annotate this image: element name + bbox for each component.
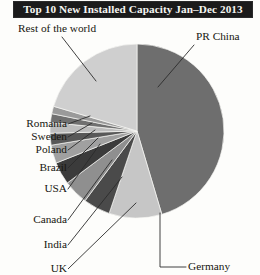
leader-line-germany: [160, 213, 186, 267]
pie-slices: [50, 44, 224, 218]
chart-title-bar: Top 10 New Installed Capacity Jan–Dec 20…: [14, 2, 252, 17]
slice-label-poland: Poland: [36, 144, 67, 155]
slice-label-usa: USA: [44, 183, 67, 194]
slice-label-sweden: Sweden: [31, 131, 67, 142]
leader-line-uk: [68, 203, 136, 269]
slice-label-rest-of-world: Rest of the world: [18, 23, 96, 34]
slice-label-pr-china: PR China: [196, 31, 240, 42]
slice-label-romania: Romania: [26, 118, 67, 129]
slice-label-uk: UK: [51, 263, 67, 274]
page-title: Top 10 New Installed Capacity Jan–Dec 20…: [23, 4, 242, 15]
pie-chart: Rest of the world PR China Romania Swede…: [0, 17, 260, 269]
slice-label-germany: Germany: [188, 261, 230, 272]
slice-label-india: India: [44, 239, 67, 250]
slice-label-canada: Canada: [33, 214, 67, 225]
slice-label-brazil: Brazil: [39, 162, 67, 173]
